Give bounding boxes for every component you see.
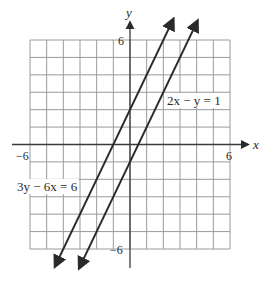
x-max-tick-label: 6 <box>226 150 232 162</box>
x-min-tick-label: −6 <box>16 150 29 162</box>
coordinate-plane <box>0 0 264 282</box>
plotted-lines <box>55 19 198 268</box>
y-max-tick-label: 6 <box>118 35 124 47</box>
y-min-tick-label: −6 <box>110 244 123 256</box>
equation-label-line-1: 3y − 6x = 6 <box>15 179 79 194</box>
x-axis-label: x <box>253 138 259 151</box>
y-axis-label: y <box>126 6 132 19</box>
equation-label-line-2: 2x − y = 1 <box>165 93 223 108</box>
series-line-1 <box>55 19 173 266</box>
